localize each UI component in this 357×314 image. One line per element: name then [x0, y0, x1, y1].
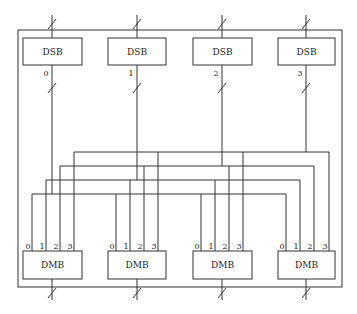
dmb-label-1: DMB: [125, 260, 148, 270]
dmb-2-input-label-1: 1: [208, 242, 213, 251]
dmb-3-input-label-0: 0: [279, 242, 284, 251]
dmb-label-2: DMB: [211, 260, 234, 270]
dmb-0-input-label-3: 3: [67, 242, 72, 251]
dmb-3-input-label-3: 3: [322, 242, 327, 251]
dmb-2-input-label-0: 0: [194, 242, 199, 251]
dmb-1-input-label-1: 1: [123, 242, 128, 251]
diagram-canvas: DSB0DSB1DSB2DSB3DMB0123DMB0123DMB0123DMB…: [0, 0, 357, 314]
dmb-1-input-label-0: 0: [109, 242, 114, 251]
dmb-3-input-label-2: 2: [307, 242, 312, 251]
dsb-label-2: DSB: [213, 47, 233, 57]
dsb-dmb-interconnect-diagram: DSB0DSB1DSB2DSB3DMB0123DMB0123DMB0123DMB…: [0, 0, 357, 314]
dmb-3-input-label-1: 1: [293, 242, 298, 251]
dmb-0-input-label-2: 2: [53, 242, 58, 251]
dmb-0-input-label-1: 1: [39, 242, 44, 251]
dsb-label-3: DSB: [297, 47, 317, 57]
dmb-2-input-label-2: 2: [222, 242, 227, 251]
dmb-0-input-label-0: 0: [25, 242, 30, 251]
dsb-index-2: 2: [213, 69, 218, 78]
dmb-label-0: DMB: [41, 260, 64, 270]
dmb-1-input-label-2: 2: [137, 242, 142, 251]
dsb-index-3: 3: [297, 69, 302, 78]
dmb-label-3: DMB: [295, 260, 318, 270]
dmb-1-input-label-3: 3: [151, 242, 156, 251]
dsb-label-1: DSB: [127, 47, 147, 57]
dsb-label-0: DSB: [43, 47, 63, 57]
dmb-2-input-label-3: 3: [236, 242, 241, 251]
dsb-index-0: 0: [43, 69, 48, 78]
dsb-index-1: 1: [128, 69, 133, 78]
